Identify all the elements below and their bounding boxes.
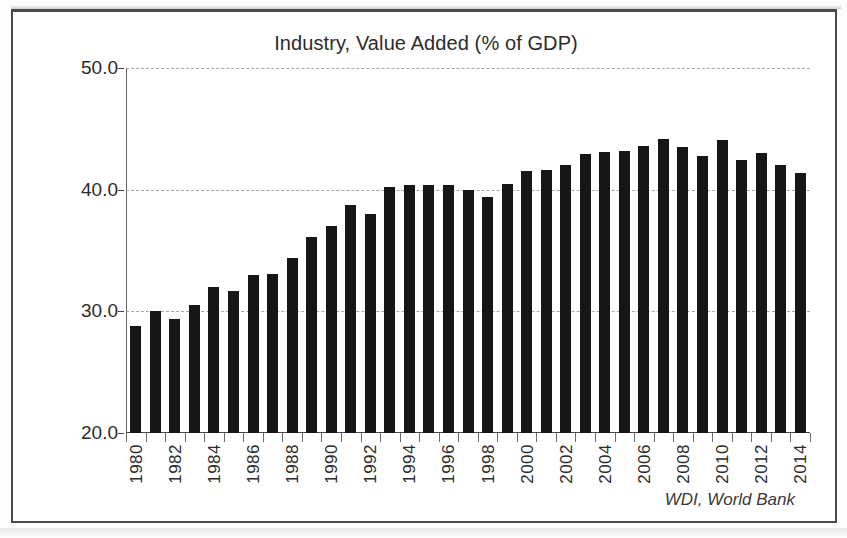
bar (150, 311, 161, 433)
x-tick-label: 1998 (479, 444, 499, 484)
bar (619, 151, 630, 433)
x-tick-mark (575, 433, 576, 442)
x-tick-label: 2000 (518, 444, 538, 484)
x-tick-mark (771, 433, 772, 442)
x-tick-label: 2012 (752, 444, 772, 484)
x-tick-label: 1992 (361, 444, 381, 484)
x-tick-mark (497, 433, 498, 442)
bar (560, 165, 571, 433)
bar (795, 173, 806, 433)
x-tick-mark (400, 433, 401, 442)
plot-area (126, 68, 810, 433)
x-tick-label: 2004 (596, 444, 616, 484)
x-tick-mark (458, 433, 459, 442)
x-tick-label: 1990 (322, 444, 342, 484)
x-tick-label: 1996 (439, 444, 459, 484)
y-tick-label: 40.0 (46, 179, 118, 201)
x-tick-mark (790, 433, 791, 442)
x-tick-label: 1986 (244, 444, 264, 484)
bar (736, 160, 747, 433)
bar (502, 184, 513, 433)
x-tick-mark (321, 433, 322, 442)
x-tick-mark (439, 433, 440, 442)
bar (541, 170, 552, 433)
bar (482, 197, 493, 433)
y-tick-label: 50.0 (46, 57, 118, 79)
bar (267, 274, 278, 433)
y-tick-label: 20.0 (46, 422, 118, 444)
x-tick-mark (478, 433, 479, 442)
x-tick-mark (185, 433, 186, 442)
x-tick-mark (595, 433, 596, 442)
x-tick-mark (751, 433, 752, 442)
x-tick-label: 2006 (635, 444, 655, 484)
x-tick-mark (615, 433, 616, 442)
bar (521, 171, 532, 433)
x-tick-mark (282, 433, 283, 442)
figure-frame: Industry, Value Added (% of GDP) 20.030.… (11, 9, 837, 523)
bar (326, 226, 337, 433)
x-tick-mark (361, 433, 362, 442)
bar (638, 146, 649, 433)
bar (775, 165, 786, 433)
bar (443, 185, 454, 433)
x-tick-label: 1988 (283, 444, 303, 484)
x-tick-mark (341, 433, 342, 442)
y-tick-mark (118, 190, 124, 191)
bars-layer (126, 68, 810, 433)
x-tick-mark (517, 433, 518, 442)
x-tick-mark (634, 433, 635, 442)
bar (130, 326, 141, 433)
x-tick-mark (673, 433, 674, 442)
chart-title: Industry, Value Added (% of GDP) (13, 32, 839, 55)
x-tick-label: 1982 (166, 444, 186, 484)
bar (717, 140, 728, 433)
bar (169, 319, 180, 433)
x-tick-mark (536, 433, 537, 442)
bar (658, 139, 669, 433)
x-tick-mark (204, 433, 205, 442)
x-tick-mark (380, 433, 381, 442)
bar (599, 152, 610, 433)
x-tick-label: 2010 (713, 444, 733, 484)
x-tick-mark (126, 433, 127, 442)
x-tick-label: 2014 (791, 444, 811, 484)
x-tick-mark (224, 433, 225, 442)
source-note: WDI, World Bank (665, 490, 795, 510)
x-tick-label: 2008 (674, 444, 694, 484)
y-tick-mark (118, 311, 124, 312)
x-tick-mark (302, 433, 303, 442)
x-tick-mark (263, 433, 264, 442)
x-tick-mark (419, 433, 420, 442)
x-tick-label: 1984 (205, 444, 225, 484)
x-tick-label: 2002 (557, 444, 577, 484)
y-tick-mark (118, 68, 124, 69)
bar (365, 214, 376, 433)
x-tick-mark (712, 433, 713, 442)
x-tick-label: 1994 (400, 444, 420, 484)
bar (306, 237, 317, 433)
bar (404, 185, 415, 433)
x-tick-mark (165, 433, 166, 442)
bar (697, 156, 708, 433)
x-tick-mark (693, 433, 694, 442)
chart-figure: Industry, Value Added (% of GDP) 20.030.… (0, 0, 847, 538)
x-tick-mark (243, 433, 244, 442)
bar (384, 187, 395, 433)
y-tick-mark (118, 433, 124, 434)
bar (677, 147, 688, 433)
bar (463, 190, 474, 433)
bar (756, 153, 767, 433)
bar (345, 205, 356, 433)
bar (423, 185, 434, 433)
bar (208, 287, 219, 433)
x-tick-label: 1980 (127, 444, 147, 484)
x-tick-mark (654, 433, 655, 442)
y-tick-label: 30.0 (46, 300, 118, 322)
scan-shadow-bottom (0, 528, 847, 538)
x-tick-mark (146, 433, 147, 442)
bar (580, 154, 591, 433)
bar (248, 275, 259, 433)
x-tick-mark (556, 433, 557, 442)
y-axis-labels: 20.030.040.050.0 (38, 68, 118, 433)
